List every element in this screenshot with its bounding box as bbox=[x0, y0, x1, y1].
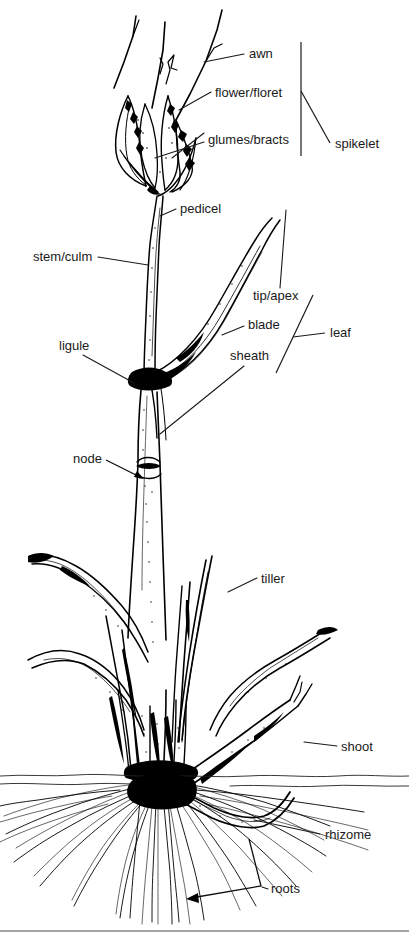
leaf-bracket bbox=[276, 295, 325, 373]
label-tip-apex: tip/apex bbox=[253, 288, 299, 303]
roots-arrowhead bbox=[186, 893, 199, 903]
label-blade: blade bbox=[248, 317, 280, 332]
ligule-node-collar bbox=[128, 368, 172, 391]
leader-tiller bbox=[228, 578, 257, 592]
label-sheath: sheath bbox=[230, 348, 269, 363]
leader-blade bbox=[222, 326, 244, 335]
crown-base bbox=[124, 690, 198, 783]
leader-tip-apex bbox=[280, 210, 286, 288]
label-tiller: tiller bbox=[261, 571, 286, 586]
label-shoot: shoot bbox=[341, 739, 373, 754]
tiller-shoot bbox=[172, 556, 212, 742]
label-rhizome: rhizome bbox=[325, 827, 371, 842]
roots-bracket bbox=[186, 839, 268, 903]
grass-plant-diagram: awn flower/floret glumes/bracts spikelet… bbox=[0, 0, 409, 942]
leader-lines bbox=[83, 54, 337, 834]
leader-rhizome bbox=[254, 820, 320, 834]
pedicel-and-culm bbox=[144, 196, 163, 378]
label-glumes-bracts: glumes/bracts bbox=[208, 132, 289, 147]
figure-canvas: awn flower/floret glumes/bracts spikelet… bbox=[0, 0, 409, 942]
label-node: node bbox=[73, 451, 102, 466]
label-roots: roots bbox=[271, 881, 300, 896]
leader-ligule bbox=[83, 355, 134, 383]
leader-flower-floret bbox=[179, 92, 211, 110]
label-stem-culm: stem/culm bbox=[33, 249, 92, 264]
label-pedicel: pedicel bbox=[180, 201, 221, 216]
lower-culm bbox=[128, 390, 166, 643]
label-awn: awn bbox=[249, 46, 273, 61]
label-spikelet: spikelet bbox=[335, 136, 379, 151]
leader-stem-culm bbox=[98, 257, 148, 265]
spikelet-bracket bbox=[301, 42, 330, 156]
node-arrowhead bbox=[134, 471, 144, 479]
label-leaf: leaf bbox=[330, 325, 351, 340]
leader-shoot bbox=[304, 742, 337, 746]
label-flower-floret: flower/floret bbox=[215, 85, 283, 100]
leader-glumes-lower bbox=[155, 142, 204, 158]
label-texts: awn flower/floret glumes/bracts spikelet… bbox=[33, 46, 379, 896]
label-ligule: ligule bbox=[59, 338, 89, 353]
spikelet-head bbox=[116, 96, 196, 196]
root-mass bbox=[0, 774, 368, 924]
right-arching-leaf bbox=[210, 627, 338, 736]
